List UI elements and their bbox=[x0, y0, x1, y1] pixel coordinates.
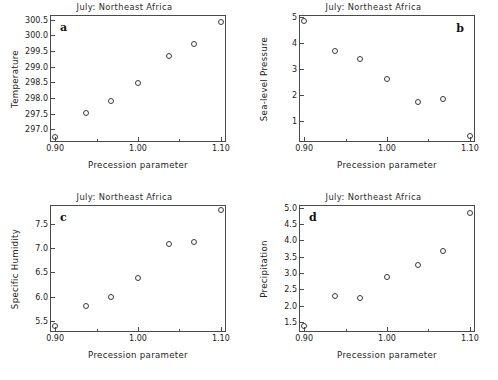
data-point bbox=[83, 110, 89, 116]
y-tick-label-a: 297.5 bbox=[25, 109, 48, 118]
data-point bbox=[415, 99, 421, 105]
panel-c-title: July: Northeast Africa bbox=[0, 192, 249, 202]
y-tick-label-b: 1 bbox=[292, 116, 297, 125]
x-tick-label-c: 1.00 bbox=[129, 334, 147, 343]
y-tick-label-a: 297.0 bbox=[25, 125, 48, 134]
panel-a-letter: a bbox=[60, 21, 67, 34]
data-point bbox=[332, 48, 338, 54]
x-tick-label-a: 1.10 bbox=[212, 144, 230, 153]
y-tick-a: 298.0 bbox=[51, 98, 55, 99]
panel-a-plot-area: a 297.0297.5298.0298.5299.0299.5300.0300… bbox=[50, 15, 226, 142]
data-point bbox=[108, 98, 114, 104]
x-tick-minor-a bbox=[179, 139, 180, 142]
y-tick-label-b: 3 bbox=[292, 65, 297, 74]
panel-c-xlabel: Precession parameter bbox=[50, 350, 226, 360]
data-point bbox=[440, 248, 446, 254]
y-tick-b: 3 bbox=[300, 69, 304, 70]
data-point bbox=[384, 274, 390, 280]
x-tick-a: 1.10 bbox=[221, 137, 222, 141]
y-tick-label-b: 5 bbox=[292, 13, 297, 22]
y-tick-label-a: 300.5 bbox=[25, 15, 48, 24]
y-tick-label-c: 6.0 bbox=[35, 292, 48, 301]
y-tick-a: 297.5 bbox=[51, 114, 55, 115]
x-tick-d: 1.00 bbox=[387, 327, 388, 331]
y-tick-label-a: 299.5 bbox=[25, 47, 48, 56]
x-tick-label-d: 1.00 bbox=[378, 334, 396, 343]
y-tick-label-d: 4.5 bbox=[284, 219, 297, 228]
panel-d-letter: d bbox=[309, 211, 317, 224]
y-tick-label-d: 1.5 bbox=[284, 317, 297, 326]
data-point bbox=[191, 41, 197, 47]
data-point bbox=[135, 275, 141, 281]
panel-c-ylabel: Specific Humidity bbox=[8, 205, 22, 332]
x-tick-minor-d bbox=[428, 329, 429, 332]
y-tick-c: 6.5 bbox=[51, 272, 55, 273]
data-point bbox=[384, 76, 390, 82]
data-point bbox=[357, 295, 363, 301]
y-tick-label-d: 2.5 bbox=[284, 285, 297, 294]
panel-d-xlabel: Precession parameter bbox=[299, 350, 475, 360]
data-point bbox=[467, 133, 473, 139]
panel-a-xlabel: Precession parameter bbox=[50, 160, 226, 170]
y-tick-label-d: 4.0 bbox=[284, 236, 297, 245]
x-tick-label-a: 0.90 bbox=[46, 144, 64, 153]
y-tick-c: 7.5 bbox=[51, 224, 55, 225]
panel-b-xlabel: Precession parameter bbox=[299, 160, 475, 170]
panel-b-plot-area: b 123450.901.001.10 bbox=[299, 15, 475, 142]
figure-scatter-grid: July: Northeast Africa Temperature a 297… bbox=[0, 0, 498, 380]
data-point bbox=[440, 96, 446, 102]
panel-c-letter: c bbox=[60, 211, 67, 224]
x-tick-label-b: 1.10 bbox=[461, 144, 479, 153]
x-tick-label-c: 1.10 bbox=[212, 334, 230, 343]
y-tick-label-d: 3.5 bbox=[284, 252, 297, 261]
data-point bbox=[52, 134, 58, 140]
y-tick-label-a: 298.0 bbox=[25, 93, 48, 102]
y-tick-label-d: 5.0 bbox=[284, 203, 297, 212]
x-tick-label-b: 0.90 bbox=[295, 144, 313, 153]
panel-b-letter: b bbox=[456, 22, 464, 35]
data-point bbox=[357, 56, 363, 62]
y-tick-d: 4.5 bbox=[300, 224, 304, 225]
y-tick-a: 297.0 bbox=[51, 129, 55, 130]
panel-b-ylabel: Sea-level Pressure bbox=[257, 15, 271, 142]
panel-a-title: July: Northeast Africa bbox=[0, 2, 249, 12]
y-tick-label-c: 6.5 bbox=[35, 268, 48, 277]
y-tick-d: 2.0 bbox=[300, 306, 304, 307]
data-point bbox=[218, 207, 224, 213]
data-point bbox=[166, 53, 172, 59]
x-tick-label-a: 1.00 bbox=[129, 144, 147, 153]
y-tick-d: 3.0 bbox=[300, 273, 304, 274]
x-tick-minor-b bbox=[428, 139, 429, 142]
data-point bbox=[52, 323, 58, 329]
x-tick-c: 1.00 bbox=[138, 327, 139, 331]
panel-c-plot-area: c 5.56.06.57.07.50.901.001.10 bbox=[50, 205, 226, 332]
panel-d-title: July: Northeast Africa bbox=[249, 192, 498, 202]
y-tick-label-d: 2.0 bbox=[284, 301, 297, 310]
data-point bbox=[332, 293, 338, 299]
data-point bbox=[467, 210, 473, 216]
data-point bbox=[108, 294, 114, 300]
y-tick-d: 5.0 bbox=[300, 208, 304, 209]
y-tick-a: 299.0 bbox=[51, 67, 55, 68]
y-tick-d: 2.5 bbox=[300, 289, 304, 290]
y-tick-label-d: 3.0 bbox=[284, 268, 297, 277]
y-tick-a: 300.0 bbox=[51, 35, 55, 36]
x-tick-a: 1.00 bbox=[138, 137, 139, 141]
y-tick-c: 7.0 bbox=[51, 248, 55, 249]
x-tick-c: 1.10 bbox=[221, 327, 222, 331]
panel-d-ylabel: Precipitation bbox=[257, 205, 271, 332]
y-tick-d: 4.0 bbox=[300, 240, 304, 241]
x-tick-label-b: 1.00 bbox=[378, 144, 396, 153]
y-tick-a: 300.5 bbox=[51, 20, 55, 21]
x-tick-d: 1.10 bbox=[470, 327, 471, 331]
x-tick-label-d: 0.90 bbox=[295, 334, 313, 343]
data-point bbox=[218, 19, 224, 25]
y-tick-c: 5.5 bbox=[51, 321, 55, 322]
y-tick-label-b: 4 bbox=[292, 39, 297, 48]
data-point bbox=[135, 80, 141, 86]
y-tick-label-c: 7.5 bbox=[35, 219, 48, 228]
panel-d: July: Northeast Africa Precipitation d 1… bbox=[249, 190, 498, 380]
y-tick-label-c: 7.0 bbox=[35, 243, 48, 252]
panel-b: July: Northeast Africa Sea-level Pressur… bbox=[249, 0, 498, 190]
data-point bbox=[415, 262, 421, 268]
